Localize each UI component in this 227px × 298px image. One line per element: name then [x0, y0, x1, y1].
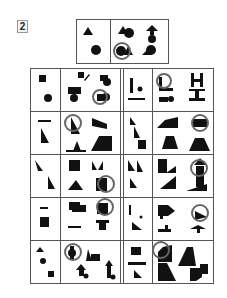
- reference-shapes: [83, 25, 158, 56]
- grid-shapes: [35, 72, 210, 281]
- puzzle-figure: [0, 0, 227, 298]
- ring-markers: [65, 74, 208, 260]
